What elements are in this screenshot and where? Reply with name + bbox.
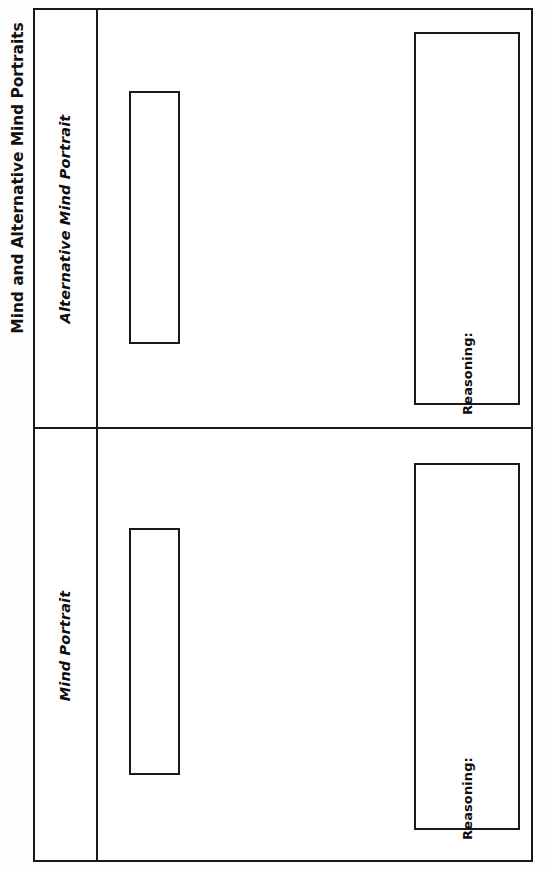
panel-alternative-mind-portrait: Alternative Mind Portrait Reasoning: [35, 10, 531, 427]
panel-header-label-alternative: Alternative Mind Portrait [58, 114, 74, 323]
reasoning-box-alternative[interactable]: Reasoning: [414, 32, 520, 405]
panel-body-alternative: Reasoning: [96, 10, 531, 427]
page-title: Mind and Alternative Mind Portraits [5, 0, 31, 428]
panel-body-mind: Reasoning: [96, 429, 531, 862]
reasoning-label-alternative: Reasoning: [460, 332, 475, 415]
portrait-drawing-box-mind[interactable] [129, 528, 180, 775]
panel-header-label-mind: Mind Portrait [58, 590, 74, 701]
reasoning-label-mind: Reasoning: [460, 757, 475, 840]
portrait-drawing-box-alternative[interactable] [129, 91, 180, 344]
scanned-page: Mind and Alternative Mind Portraits Alte… [0, 0, 552, 873]
panel-header-cell-alternative: Alternative Mind Portrait [35, 10, 96, 427]
panel-mind-portrait: Mind Portrait Reasoning: [35, 429, 531, 862]
panel-header-cell-mind: Mind Portrait [35, 429, 96, 862]
worksheet-table: Alternative Mind Portrait Reasoning: Min… [33, 8, 533, 862]
reasoning-box-mind[interactable]: Reasoning: [414, 463, 520, 830]
